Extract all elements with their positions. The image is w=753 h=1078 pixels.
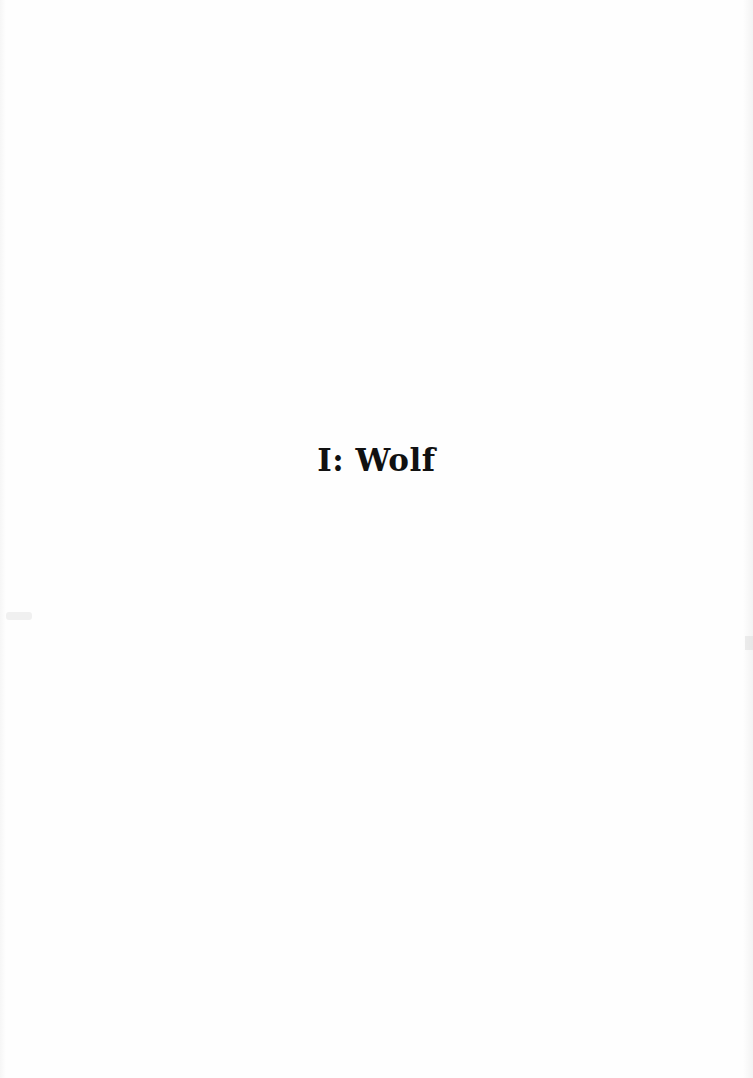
scan-artifact xyxy=(6,612,32,620)
document-page: I: Wolf xyxy=(0,0,753,1078)
scan-edge-left xyxy=(0,0,6,1078)
scan-edge-right xyxy=(743,0,753,1078)
chapter-title: I: Wolf xyxy=(0,438,753,482)
scan-artifact-right xyxy=(745,636,753,650)
